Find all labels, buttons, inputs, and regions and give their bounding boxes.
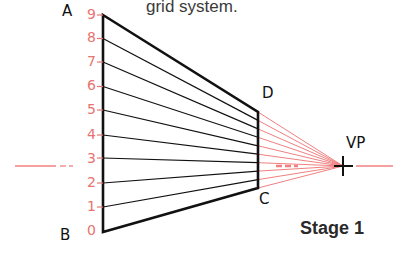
point-label-vp: VP xyxy=(346,134,365,152)
scale-tick-1: 1 xyxy=(82,198,96,214)
vanishing-point-cross-icon xyxy=(334,156,353,176)
scale-tick-5: 5 xyxy=(82,101,96,117)
vanishing-lines xyxy=(258,112,343,188)
scale-tick-6: 6 xyxy=(82,77,96,93)
scale-tick-8: 8 xyxy=(82,29,96,45)
caption-text: grid system. xyxy=(146,0,238,17)
scale-tick-0: 0 xyxy=(82,222,96,238)
stage-label: Stage 1 xyxy=(300,218,364,239)
scale-tick-4: 4 xyxy=(82,126,96,142)
scale-tick-2: 2 xyxy=(82,174,96,190)
point-label-b: B xyxy=(60,226,70,244)
scale-tick-9: 9 xyxy=(82,6,96,22)
diagram-drawing xyxy=(0,0,412,254)
scale-tick-7: 7 xyxy=(82,53,96,69)
perspective-grid-diagram: grid system. A B C D VP 0 1 2 3 4 5 6 7 … xyxy=(0,0,412,254)
scale-tick-3: 3 xyxy=(82,150,96,166)
point-label-d: D xyxy=(262,84,274,102)
point-label-c: C xyxy=(259,190,269,208)
point-label-a: A xyxy=(62,2,72,20)
trapezoid-outline xyxy=(103,15,258,232)
